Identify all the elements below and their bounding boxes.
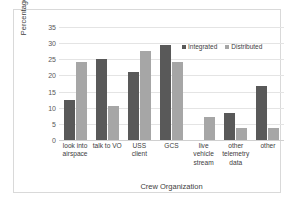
legend-swatch-icon [182, 45, 186, 49]
bar-group [91, 27, 123, 140]
chart-legend: IntegratedDistributed [182, 43, 262, 50]
bar [236, 128, 247, 140]
y-axis-tick-label: 0 [52, 140, 56, 141]
bar [64, 100, 75, 140]
bar [140, 51, 151, 140]
x-axis-tick-label: other telemetry data [220, 142, 252, 167]
x-axis-title: Crew Organization [59, 182, 284, 191]
legend-item: Integrated [182, 43, 217, 50]
x-axis-tick-label: talk to VO [91, 142, 123, 167]
bar [204, 117, 215, 140]
y-axis-title: Percentage [18, 0, 30, 48]
bar [224, 113, 235, 140]
bar [128, 72, 139, 140]
bar-chart: Percentage 05101520253035 look into airs… [13, 9, 281, 193]
x-axis-tick-label: GCS [155, 142, 187, 167]
bar [76, 62, 87, 140]
y-axis-tick-label: 30 [48, 43, 56, 44]
x-axis-tick-labels: look into airspacetalk to VOUSS clientGC… [59, 142, 284, 167]
x-axis-tick-label: USS client [123, 142, 155, 167]
legend-label: Distributed [231, 43, 262, 50]
bar [256, 86, 267, 140]
bar [96, 59, 107, 140]
bar-group [59, 27, 91, 140]
x-axis-tick-label: live vehicle stream [188, 142, 220, 167]
bar [268, 128, 279, 140]
y-axis-tick-label: 15 [48, 92, 56, 93]
bar [160, 45, 171, 140]
gridline-0: 0 [59, 140, 284, 141]
y-axis-tick-label: 35 [48, 27, 56, 28]
x-axis-tick-label: look into airspace [59, 142, 91, 167]
y-axis-tick-label: 10 [48, 108, 56, 109]
legend-label: Integrated [188, 43, 217, 50]
x-axis-tick-label: other [252, 142, 284, 167]
bar-group [123, 27, 155, 140]
legend-swatch-icon [225, 45, 229, 49]
bar [108, 106, 119, 140]
bar [172, 62, 183, 140]
y-axis-tick-label: 5 [52, 124, 56, 125]
y-axis-tick-label: 20 [48, 75, 56, 76]
y-axis-tick-label: 25 [48, 59, 56, 60]
legend-item: Distributed [225, 43, 262, 50]
